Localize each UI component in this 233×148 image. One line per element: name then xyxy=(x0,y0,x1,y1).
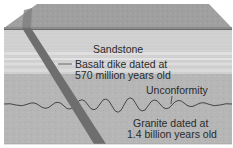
granite-label-line2: 1.4 billion years old xyxy=(127,129,217,140)
block-top-face xyxy=(4,4,232,28)
basalt-dike-top-trace xyxy=(22,8,32,28)
unconformity-label: Unconformity xyxy=(146,85,208,96)
dike-label-line2: 570 million years old xyxy=(75,70,171,81)
sandstone-label: Sandstone xyxy=(93,44,143,55)
